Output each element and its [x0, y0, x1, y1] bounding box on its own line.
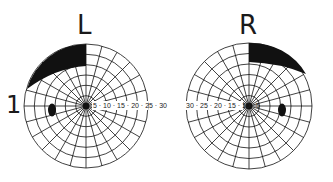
- visual-field-diagram: 5 · 10 · 15 · 20 · 25 · 30 30 · 25 · 20 …: [0, 0, 333, 182]
- right-visual-field: 30 · 25 · 20 · 15 · 10 · 5: [185, 43, 312, 169]
- left-scale-labels: 5 · 10 · 15 · 20 · 25 · 30: [93, 102, 167, 109]
- left-field-defect: [27, 44, 86, 89]
- left-blind-spot: [48, 104, 56, 117]
- right-blind-spot: [278, 104, 286, 117]
- right-field-defect: [249, 43, 306, 74]
- left-visual-field: 5 · 10 · 15 · 20 · 25 · 30: [24, 44, 167, 168]
- right-scale-labels: 30 · 25 · 20 · 15 · 10 · 5: [186, 102, 260, 109]
